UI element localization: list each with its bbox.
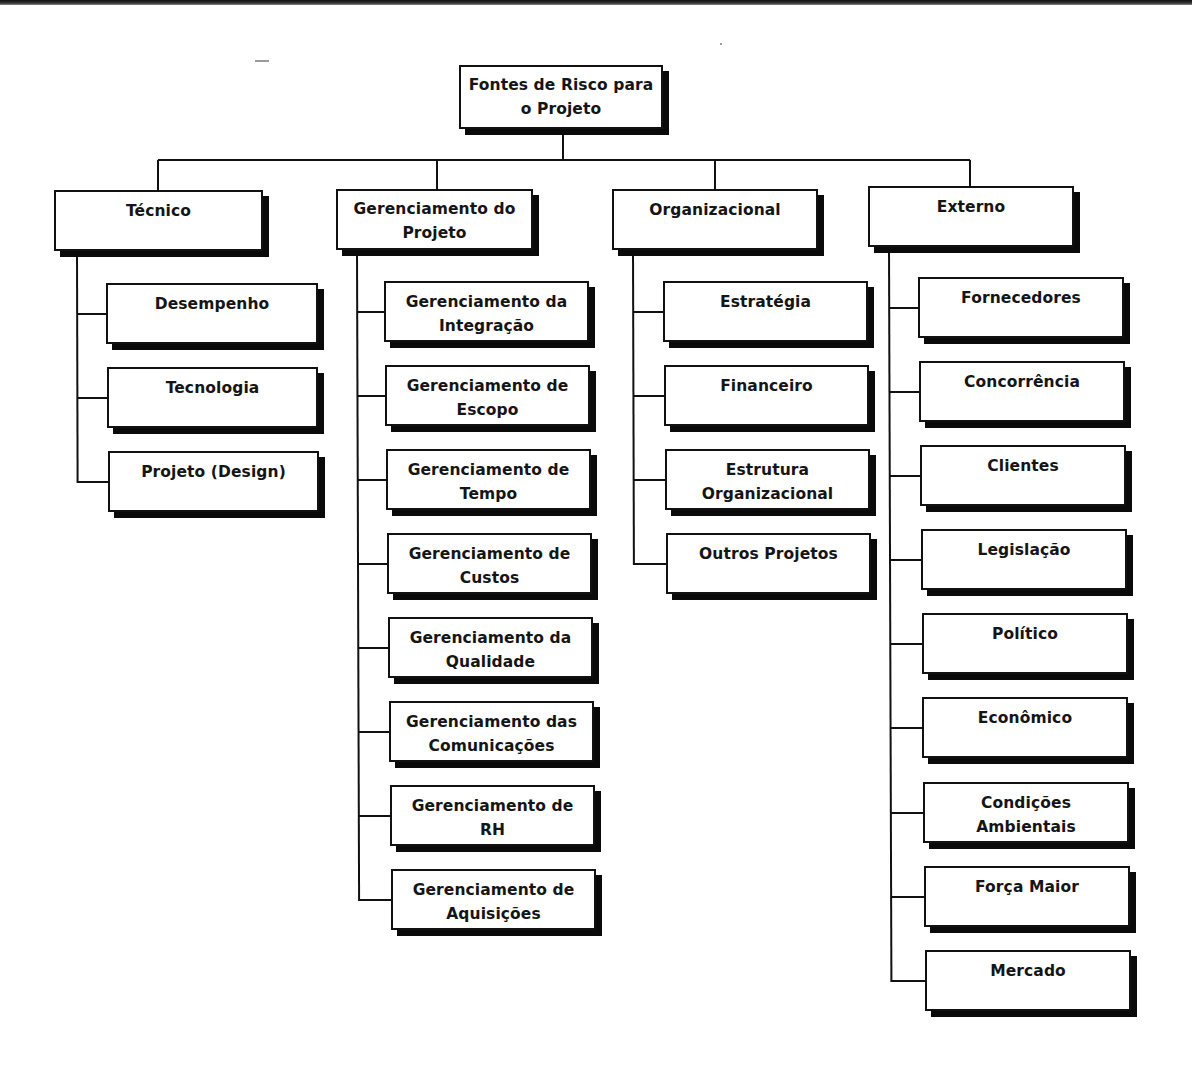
category-externo: Externo	[868, 186, 1074, 247]
risk-item-label: Econômico	[924, 706, 1126, 730]
risk-item-label: Mercado	[927, 959, 1129, 983]
category-label: Externo	[870, 195, 1072, 219]
risk-item-label: Concorrência	[921, 370, 1123, 394]
risk-item-tecnologia: Tecnologia	[107, 367, 318, 428]
risk-item-politico: Político	[922, 613, 1128, 674]
risk-item-economico: Econômico	[922, 697, 1128, 758]
risk-item-label: Gerenciamento da Qualidade	[390, 626, 591, 674]
risk-item-fornecedores: Fornecedores	[918, 277, 1124, 338]
category-label: Gerenciamento do Projeto	[338, 197, 531, 245]
risk-item-label: Estratégia	[665, 290, 866, 314]
risk-item-condicoes-ambientais: Condições Ambientais	[923, 782, 1129, 843]
risk-item-mercado: Mercado	[925, 950, 1131, 1011]
root-node-fontes-de-risco: Fontes de Risco para o Projeto	[459, 65, 663, 129]
risk-item-label: Tecnologia	[109, 376, 316, 400]
risk-item-label: Condições Ambientais	[925, 791, 1127, 839]
risk-item-label: Financeiro	[666, 374, 867, 398]
connector-spine	[357, 250, 359, 901]
category-label: Organizacional	[614, 198, 816, 222]
risk-item-label: Gerenciamento da Integração	[386, 290, 587, 338]
connector-spine	[77, 252, 78, 483]
risk-item-concorrencia: Concorrência	[919, 361, 1125, 422]
risk-item-clientes: Clientes	[920, 445, 1126, 506]
risk-item-estrutura-organizacional: Estrutura Organizacional	[665, 449, 870, 510]
connector-spine	[633, 250, 634, 565]
risk-item-label: Fornecedores	[920, 286, 1122, 310]
root-label: Fontes de Risco para o Projeto	[461, 73, 661, 121]
risk-item-escopo: Gerenciamento de Escopo	[385, 365, 590, 426]
risk-item-label: Gerenciamento de Aquisições	[393, 878, 594, 926]
risk-item-outros-projetos: Outros Projetos	[666, 533, 871, 594]
risk-item-custos: Gerenciamento de Custos	[387, 533, 592, 594]
risk-item-tempo: Gerenciamento de Tempo	[386, 449, 591, 510]
risk-item-forca-maior: Força Maior	[924, 866, 1130, 927]
risk-item-qualidade: Gerenciamento da Qualidade	[388, 617, 593, 678]
risk-item-estrategia: Estratégia	[663, 281, 868, 342]
category-tecnico: Técnico	[54, 190, 263, 251]
risk-item-label: Gerenciamento das Comunicações	[391, 710, 592, 758]
risk-item-label: Gerenciamento de RH	[392, 794, 593, 842]
risk-item-label: Gerenciamento de Escopo	[387, 374, 588, 422]
risk-item-desempenho: Desempenho	[106, 283, 318, 344]
risk-item-label: Gerenciamento de Tempo	[388, 458, 589, 506]
risk-item-aquisicoes: Gerenciamento de Aquisições	[391, 869, 596, 930]
risk-item-label: Estrutura Organizacional	[667, 458, 868, 506]
risk-item-rh: Gerenciamento de RH	[390, 785, 595, 846]
category-organizacional: Organizacional	[612, 189, 818, 250]
risk-item-label: Desempenho	[108, 292, 316, 316]
category-label: Técnico	[56, 199, 261, 223]
risk-item-label: Político	[924, 622, 1126, 646]
risk-item-label: Outros Projetos	[668, 542, 869, 566]
risk-item-label: Gerenciamento de Custos	[389, 542, 590, 590]
risk-item-projeto-design: Projeto (Design)	[108, 451, 319, 512]
risk-item-integracao: Gerenciamento da Integração	[384, 281, 589, 342]
risk-item-label: Projeto (Design)	[110, 460, 317, 484]
connector-spine	[889, 247, 891, 982]
risk-item-legislacao: Legislação	[921, 529, 1127, 590]
risk-item-label: Legislação	[923, 538, 1125, 562]
risk-item-comunicacoes: Gerenciamento das Comunicações	[389, 701, 594, 762]
risk-item-financeiro: Financeiro	[664, 365, 869, 426]
risk-item-label: Clientes	[922, 454, 1124, 478]
category-gerenciamento-do-projeto: Gerenciamento do Projeto	[336, 189, 533, 250]
risk-item-label: Força Maior	[926, 875, 1128, 899]
